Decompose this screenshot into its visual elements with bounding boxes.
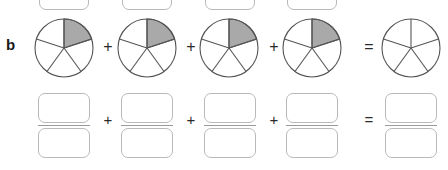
denominator-input-2[interactable] <box>121 128 173 158</box>
fraction-bar-4 <box>286 125 338 126</box>
operator-plus-top-1: + <box>100 38 116 56</box>
numerator-input-2[interactable] <box>121 93 173 123</box>
pie-chart-4 <box>282 18 342 78</box>
denominator-input-1[interactable] <box>38 128 90 158</box>
numerator-input-1[interactable] <box>38 93 90 123</box>
pie-chart-2 <box>117 18 177 78</box>
answer-box-top-1[interactable] <box>39 0 89 10</box>
operator-plus-bottom-1: + <box>100 111 116 128</box>
fraction-bar-2 <box>121 125 173 126</box>
fraction-blank-4 <box>286 93 338 158</box>
fraction-bar-1 <box>38 125 90 126</box>
pie-chart-3 <box>199 18 259 78</box>
answer-box-top-2[interactable] <box>122 0 172 10</box>
fraction-blank-3 <box>204 93 256 158</box>
part-label-b: b <box>6 36 15 53</box>
fraction-blank-1 <box>38 93 90 158</box>
answer-box-top-3[interactable] <box>205 0 255 10</box>
fraction-bar-result <box>385 125 437 126</box>
numerator-input-3[interactable] <box>204 93 256 123</box>
worksheet-figure: b <box>0 0 448 170</box>
pie-chart-1 <box>34 18 94 78</box>
operator-plus-top-3: + <box>266 38 282 56</box>
pie-chart-result <box>381 18 441 78</box>
operator-plus-bottom-3: + <box>266 111 282 128</box>
fraction-blank-2 <box>121 93 173 158</box>
numerator-input-result[interactable] <box>385 93 437 123</box>
denominator-input-4[interactable] <box>286 128 338 158</box>
operator-equals-bottom: = <box>361 111 377 128</box>
numerator-input-4[interactable] <box>286 93 338 123</box>
fraction-bar-3 <box>204 125 256 126</box>
denominator-input-3[interactable] <box>204 128 256 158</box>
answer-box-top-4[interactable] <box>287 0 337 10</box>
operator-plus-bottom-2: + <box>183 111 199 128</box>
operator-plus-top-2: + <box>183 38 199 56</box>
operator-equals-top: = <box>361 38 377 56</box>
fraction-blank-result <box>385 93 437 158</box>
denominator-input-result[interactable] <box>385 128 437 158</box>
